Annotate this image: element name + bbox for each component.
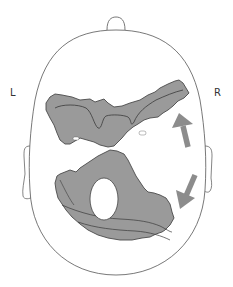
left-label: L	[10, 87, 16, 98]
posterior-lesion-hole	[90, 178, 118, 220]
head-diagram	[0, 0, 233, 287]
right-label: R	[214, 87, 221, 98]
nose	[107, 17, 125, 30]
anterior-lesion-gap-right	[139, 131, 146, 135]
anterior-lesion-gap-left	[73, 137, 79, 140]
